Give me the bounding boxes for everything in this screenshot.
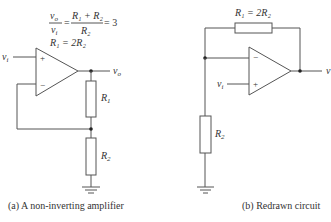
output-label-b: v [326,65,331,76]
eq-result: = 3 [104,17,117,28]
output-label-a: vo [113,65,121,78]
op-amp-b-minus: − [253,52,258,62]
resistor-r1-b [235,23,272,33]
op-amp-a-plus: + [40,53,45,63]
input-label-b: vi [217,78,223,91]
eq-relation: R₁ = 2R₂ [49,37,86,48]
eq-equals: = [64,17,70,28]
r1-label: R1 [100,92,111,105]
r2-label-b: R2 [214,128,225,141]
caption-a: (a) A non-inverting amplifier [8,200,124,212]
input-label-a: vi [2,51,8,64]
gain-equation: vo vi = R₁ + R₂ R₂ = 3 R₁ = 2R₂ [49,10,117,48]
eq-vi: vi [51,24,57,37]
ground-icon [82,187,100,193]
op-amp-a-minus: − [40,80,45,90]
caption-b: (b) Redrawn circuit [242,200,321,212]
eq-vo: vo [50,10,58,23]
output-junction-b [298,69,302,73]
eq-rhs-numerator: R₁ + R₂ [71,10,103,21]
figure-a-non-inverting-amplifier: vo vi = R₁ + R₂ R₂ = 3 R₁ = 2R₂ + − vi v… [2,10,124,212]
feedback-label-b: R₁ = 2R₂ [234,7,271,18]
r2-label-a: R2 [100,150,111,163]
figure-b-redrawn-circuit: R₁ = 2R₂ − + vi v R2 (b) Redrawn circuit [197,7,331,212]
op-amp-b-plus: + [253,79,258,89]
resistor-r2-a [86,138,96,175]
feedback-junction-a [89,127,93,131]
ground-icon [197,187,214,193]
resistor-r2-b [200,116,211,153]
circuit-diagram: vo vi = R₁ + R₂ R₂ = 3 R₁ = 2R₂ + − vi v… [0,0,331,222]
eq-rhs-denominator: R₂ [80,25,91,36]
resistor-r1 [86,81,96,117]
